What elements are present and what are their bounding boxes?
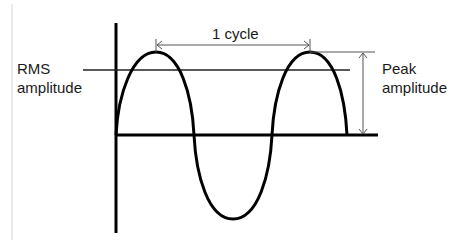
rms-label-line2: amplitude	[17, 78, 82, 97]
peak-amplitude-label: Peak amplitude	[382, 59, 447, 97]
rms-amplitude-label: RMS amplitude	[17, 59, 82, 97]
rms-label-line1: RMS	[17, 59, 82, 78]
peak-label-line1: Peak	[382, 59, 447, 78]
cycle-label: 1 cycle	[212, 24, 259, 43]
peak-label-line2: amplitude	[382, 78, 447, 97]
